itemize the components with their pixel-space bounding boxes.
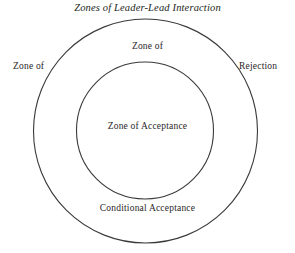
label-outer-zone-of: Zone of [13, 61, 44, 71]
diagram-canvas: Zones of Leader-Lead Interaction Zone of… [0, 0, 295, 253]
label-ring-conditional-acceptance: Conditional Acceptance [0, 203, 295, 213]
diagram-title: Zones of Leader-Lead Interaction [0, 2, 295, 13]
label-core-zone-of-acceptance: Zone of Acceptance [0, 121, 295, 131]
label-outer-rejection: Rejection [239, 61, 277, 71]
label-ring-zone-of: Zone of [0, 41, 295, 51]
